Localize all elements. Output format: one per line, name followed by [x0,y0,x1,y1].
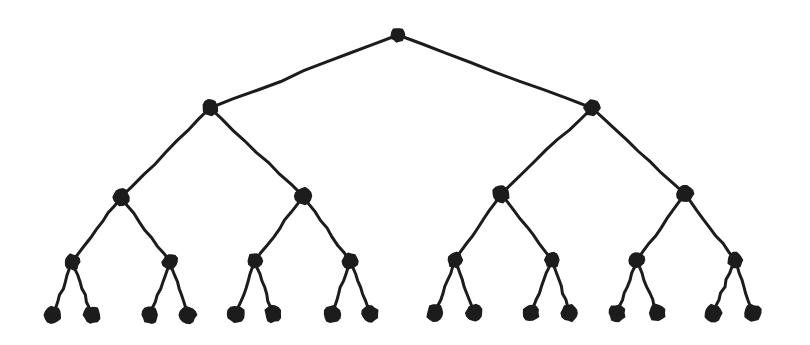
diagram-background [0,0,810,345]
binary-tree-diagram [0,0,810,345]
tree-canvas [0,0,810,345]
